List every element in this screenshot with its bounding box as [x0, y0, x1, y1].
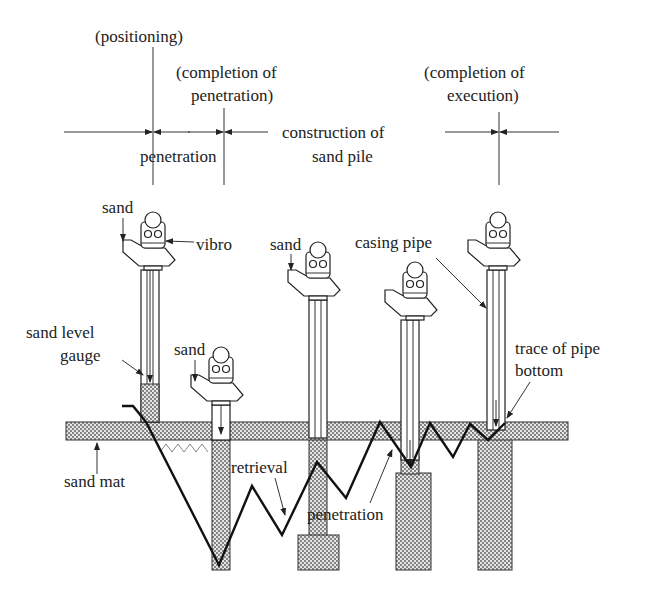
label-completion-execution-1: (completion of — [424, 63, 525, 82]
label-casing-pipe: casing pipe — [355, 233, 432, 252]
label-completion-penetration-2: penetration) — [191, 86, 273, 105]
label-sand-1: sand — [102, 198, 134, 217]
label-completion-penetration-1: (completion of — [176, 63, 277, 82]
label-trace-1: trace of pipe — [515, 339, 600, 358]
rig-1 — [123, 212, 175, 422]
pile-5 — [478, 438, 512, 570]
pile-3-bulb — [298, 535, 339, 570]
casing-pipe-4 — [401, 320, 419, 460]
sand-pile-diagram: (positioning) (completion of penetration… — [0, 0, 652, 597]
timeline: (positioning) (completion of penetration… — [64, 27, 559, 185]
label-vibro: vibro — [196, 235, 232, 254]
label-penetration-bottom: penetration — [307, 505, 384, 524]
label-completion-execution-2: execution) — [447, 86, 519, 105]
rig-5 — [468, 212, 520, 430]
ground-hatch — [160, 444, 208, 452]
casing-pipe-3 — [309, 300, 327, 438]
label-trace-2: bottom — [515, 361, 563, 380]
sand-column-1 — [141, 384, 159, 422]
label-sand-2: sand — [174, 340, 206, 359]
label-sand-mat: sand mat — [64, 472, 125, 491]
rig-3 — [288, 242, 340, 438]
label-sand-level-gauge-2: gauge — [60, 346, 101, 365]
label-phase-construction-1: construction of — [282, 123, 385, 142]
label-positioning: (positioning) — [95, 27, 183, 46]
label-sand-3: sand — [270, 235, 302, 254]
pile-4-bulb — [396, 473, 431, 570]
label-phase-penetration: penetration — [140, 147, 217, 166]
label-phase-construction-2: sand pile — [312, 147, 373, 166]
pile-2 — [212, 438, 230, 570]
label-retrieval: retrieval — [231, 458, 288, 477]
label-sand-level-gauge-1: sand level — [26, 323, 95, 342]
